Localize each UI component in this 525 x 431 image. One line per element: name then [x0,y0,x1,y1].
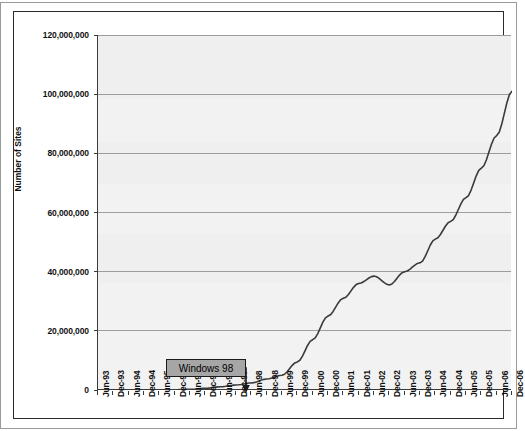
x-axis-tick [450,391,451,395]
x-axis-tick [312,391,313,395]
x-axis-tick-label: Jun-03 [408,371,418,397]
x-axis-tick-label: Jun-06 [500,371,510,397]
y-axis-tick-label: 20,000,000 [0,326,89,336]
x-axis-tick-label: Dec-06 [515,370,525,397]
x-axis-tick [296,391,297,395]
x-axis-tick [204,391,205,395]
x-axis-tick-label: Dec-05 [484,370,494,397]
x-axis-tick [189,391,190,395]
x-axis-tick-label: Dec-04 [454,370,464,397]
y-axis-tick-label: 80,000,000 [0,148,89,158]
x-axis-tick [220,391,221,395]
x-axis-tick [480,391,481,395]
x-axis: Jun-93Dec-93Jun-94Dec-94Jun-95Dec-95Jun-… [97,391,511,431]
y-axis-tick-label: 0 [0,385,89,395]
x-axis-tick [373,391,374,395]
annotation-windows-98[interactable]: Windows 98 [166,359,246,377]
x-axis-tick-label: Jun-05 [469,371,479,397]
x-axis-tick [404,391,405,395]
x-axis-tick-label: Dec-99 [300,370,310,397]
plot-area [97,35,511,390]
x-axis-tick-label: Dec-94 [147,370,157,397]
x-axis-tick [143,391,144,395]
x-axis-tick-label: Dec-93 [116,370,126,397]
x-axis-tick-label: Jun-99 [285,371,295,397]
x-axis-tick [511,391,512,395]
x-axis-tick [496,391,497,395]
x-axis-tick-label: Jun-01 [346,371,356,397]
x-axis-tick [342,391,343,395]
x-axis-tick [327,391,328,395]
x-axis-tick-label: Jun-04 [438,371,448,397]
x-axis-tick-label: Dec-02 [392,370,402,397]
chart-frame: Number of Sites 020,000,00040,000,00060,… [13,11,504,419]
y-axis-title: Number of Sites [13,99,23,219]
y-axis-tick-label: 100,000,000 [0,89,89,99]
y-axis-tick-label: 120,000,000 [0,30,89,40]
x-axis-tick [112,391,113,395]
x-axis-tick-label: Jun-02 [377,371,387,397]
x-axis-tick [128,391,129,395]
x-axis-tick [358,391,359,395]
x-axis-tick [388,391,389,395]
x-axis-tick-label: Dec-00 [331,370,341,397]
x-axis-tick [158,391,159,395]
x-axis-tick-label: Jun-93 [101,371,111,397]
x-axis-tick [174,391,175,395]
x-axis-tick-label: Dec-01 [362,370,372,397]
x-axis-tick [434,391,435,395]
x-axis-tick-label: Dec-03 [423,370,433,397]
x-axis-tick-label: Jun-94 [132,371,142,397]
x-axis-tick-label: Jun-00 [316,371,326,397]
x-axis-tick [419,391,420,395]
x-axis-tick [281,391,282,395]
y-axis-tick-label: 40,000,000 [0,267,89,277]
x-axis-tick [465,391,466,395]
series-line-number-of-sites [98,35,512,390]
annotation-label: Windows 98 [179,363,233,374]
y-axis-tick-label: 60,000,000 [0,208,89,218]
x-axis-tick [97,391,98,395]
